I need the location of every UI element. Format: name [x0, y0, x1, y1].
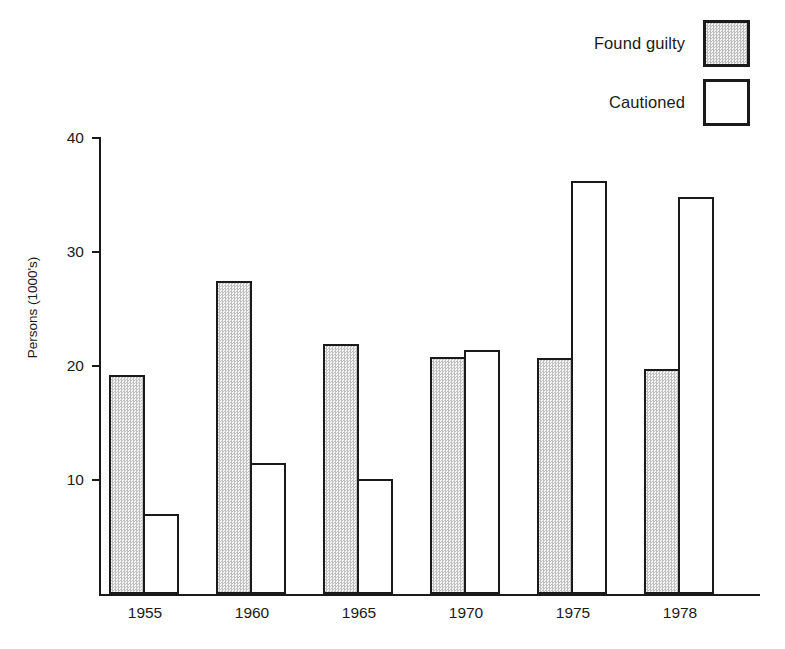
bar-cautioned	[357, 479, 393, 594]
y-axis-tick	[92, 479, 101, 481]
y-axis-line	[99, 138, 101, 596]
x-axis-tick-label: 1960	[235, 604, 269, 622]
bar-found-guilty	[109, 375, 145, 594]
x-axis-tick-label: 1975	[556, 604, 590, 622]
bar-cautioned	[678, 197, 714, 594]
y-axis-tick-label: 30	[26, 243, 84, 261]
bar-cautioned	[571, 181, 607, 594]
bar-found-guilty	[323, 344, 359, 594]
bar-found-guilty	[216, 281, 252, 595]
x-axis-tick-label: 1970	[449, 604, 483, 622]
x-axis-tick-label: 1965	[342, 604, 376, 622]
y-axis-tick-label: 20	[26, 357, 84, 375]
bar-found-guilty	[430, 357, 466, 594]
plot-area: Persons (1000's) 10203040 19551960196519…	[0, 0, 785, 649]
bar-cautioned	[250, 463, 286, 594]
bar-found-guilty	[537, 358, 573, 594]
bar-cautioned	[143, 514, 179, 594]
y-axis-tick-label: 40	[26, 129, 84, 147]
x-axis-line	[99, 594, 760, 596]
x-axis-tick-label: 1955	[128, 604, 162, 622]
chart-page: Found guilty Cautioned Persons (1000's) …	[0, 0, 785, 649]
x-axis-tick-label: 1978	[663, 604, 697, 622]
y-axis-tick	[92, 251, 101, 253]
y-axis-tick	[92, 365, 101, 367]
y-axis-tick	[92, 137, 101, 139]
bar-found-guilty	[644, 369, 680, 594]
y-axis-tick-label: 10	[26, 471, 84, 489]
bar-cautioned	[464, 350, 500, 594]
